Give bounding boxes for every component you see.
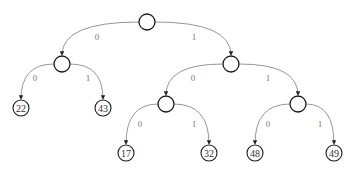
- edge-label: 0: [95, 32, 100, 42]
- internal-node: [290, 96, 306, 112]
- leaf-value: 43: [98, 103, 108, 114]
- leaf-value: 32: [204, 148, 214, 159]
- edge-label: 0: [33, 73, 38, 83]
- edge-label: 1: [86, 73, 91, 83]
- internal-node: [158, 96, 174, 112]
- node-circle: [54, 56, 70, 72]
- edge-labels: 0101010101: [33, 32, 323, 129]
- edge-label: 1: [192, 32, 197, 42]
- leaf-value: 17: [121, 148, 131, 159]
- edge-label: 1: [266, 73, 271, 83]
- leaf-value: 22: [16, 103, 26, 114]
- node-circle: [290, 96, 306, 112]
- edge-label: 1: [318, 119, 323, 129]
- internal-node: [54, 56, 70, 72]
- leaf-node: 49: [326, 145, 342, 161]
- tree-edge: [255, 104, 290, 144]
- binary-tree-diagram: 0101010101 224317324849: [0, 0, 355, 172]
- leaf-node: 22: [13, 100, 29, 116]
- tree-nodes: 224317324849: [13, 14, 342, 161]
- edge-label: 1: [192, 119, 197, 129]
- node-circle: [139, 14, 155, 30]
- internal-node: [223, 56, 239, 72]
- tree-edge: [21, 64, 54, 99]
- leaf-node: 48: [247, 145, 263, 161]
- leaf-node: 32: [201, 145, 217, 161]
- node-circle: [223, 56, 239, 72]
- edge-label: 0: [266, 119, 271, 129]
- internal-node: [139, 14, 155, 30]
- node-circle: [158, 96, 174, 112]
- leaf-node: 17: [118, 145, 134, 161]
- edge-label: 0: [138, 119, 143, 129]
- leaf-value: 49: [329, 148, 339, 159]
- leaf-value: 48: [250, 148, 260, 159]
- tree-edge: [62, 22, 139, 55]
- tree-edges: [21, 22, 334, 144]
- edge-label: 0: [191, 73, 196, 83]
- leaf-node: 43: [95, 100, 111, 116]
